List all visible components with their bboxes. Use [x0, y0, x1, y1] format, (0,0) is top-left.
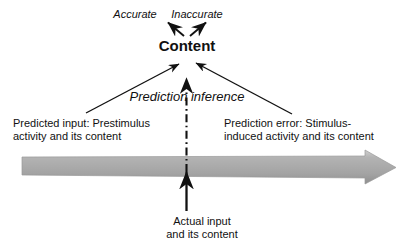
label-content: Content: [159, 37, 216, 55]
label-actual-input-line1: Actual input: [166, 215, 238, 228]
label-predicted-input-line2: activity and its content: [13, 130, 150, 143]
timeline-arrow: [22, 150, 396, 184]
label-actual-input-line2: and its content: [166, 228, 238, 241]
label-actual-input: Actual input and its content: [166, 215, 238, 242]
label-predicted-input-line1: Predicted input: Prestimulus: [13, 117, 150, 130]
content-to-accurate-arrow: [168, 23, 184, 37]
label-predicted-input: Predicted input: Prestimulus activity an…: [13, 117, 150, 144]
prediction-inference-diagram: Accurate Inaccurate Content Prediction i…: [0, 0, 405, 249]
label-prediction-error: Prediction error: Stimulus- induced acti…: [224, 117, 374, 144]
label-prediction-error-line1: Prediction error: Stimulus-: [224, 117, 374, 130]
label-prediction-error-line2: induced activity and its content: [224, 130, 374, 143]
label-prediction-inference: Prediction inference: [130, 89, 245, 105]
label-accurate: Accurate: [113, 8, 156, 21]
label-inaccurate: Inaccurate: [171, 8, 222, 21]
content-to-inaccurate-arrow: [190, 23, 206, 37]
